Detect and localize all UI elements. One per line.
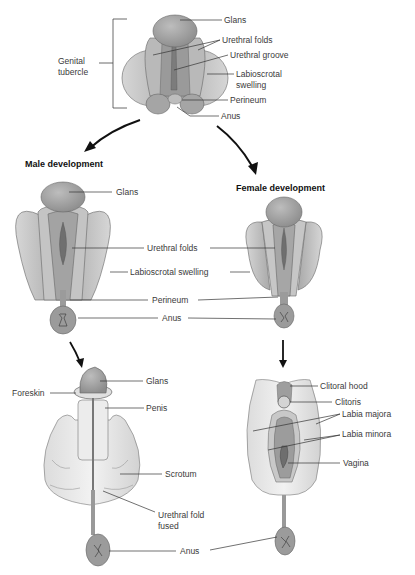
- indifferent-stage-illustration: [99, 15, 234, 116]
- label-anus-bottom: Anus: [180, 546, 199, 556]
- label-urethral-groove-indifferent: Urethral groove: [230, 50, 289, 60]
- label-labia-minora: Labia minora: [342, 429, 391, 439]
- label-anus-indifferent: Anus: [221, 111, 240, 121]
- label-clitoris: Clitoris: [335, 397, 361, 407]
- arrow-to-female: [217, 126, 258, 175]
- label-perineum-middle: Perineum: [152, 295, 188, 305]
- label-genital-tubercle: Genital tubercle: [58, 56, 98, 78]
- label-labia-majora: Labia majora: [342, 409, 391, 419]
- male-stage1-illustration: [16, 182, 158, 334]
- arrow-female-stage2: [279, 340, 287, 368]
- diagram-canvas: [0, 0, 415, 575]
- label-glans-male1: Glans: [116, 187, 138, 197]
- label-perineum-indifferent: Perineum: [230, 95, 266, 105]
- label-anus-middle: Anus: [162, 313, 181, 323]
- heading-male-development: Male development: [25, 159, 103, 169]
- heading-female-development: Female development: [236, 183, 325, 193]
- label-urethral-folds-middle: Urethral folds: [147, 243, 198, 253]
- label-foreskin: Foreskin: [12, 388, 45, 398]
- label-urethral-fold-fused: Urethral fold fused: [158, 510, 206, 532]
- label-labioscrotal-swelling-middle: Labioscrotal swelling: [130, 267, 208, 277]
- label-glans-male2: Glans: [146, 376, 168, 386]
- female-stage2-illustration: [210, 380, 340, 556]
- female-stage1-illustration: [188, 197, 322, 328]
- label-vagina: Vagina: [343, 458, 369, 468]
- male-stage2-illustration: [44, 367, 176, 566]
- label-urethral-folds-indifferent: Urethral folds: [222, 35, 273, 45]
- label-labioscrotal-swelling-indifferent: Labioscrotal swelling: [236, 69, 296, 91]
- arrow-male-stage2: [70, 342, 84, 368]
- label-glans-indifferent: Glans: [224, 15, 246, 25]
- genital-tubercle-bracket: [113, 19, 127, 108]
- label-clitoral-hood: Clitoral hood: [320, 381, 368, 391]
- label-penis: Penis: [146, 403, 167, 413]
- label-scrotum: Scrotum: [165, 469, 197, 479]
- arrow-to-male: [84, 120, 140, 152]
